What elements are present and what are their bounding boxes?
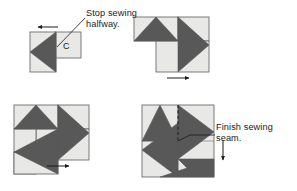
patch-label-c: C bbox=[63, 41, 70, 51]
panel-3-group bbox=[14, 105, 89, 174]
stop-sewing-line-1: Stop sewing bbox=[86, 8, 137, 18]
sewing-sequence-illustration bbox=[0, 0, 297, 191]
finish-sewing-annotation: Finish sewingseam. bbox=[216, 122, 273, 144]
panel-2-group bbox=[134, 17, 209, 78]
panel-4-group bbox=[142, 105, 223, 177]
panel-1-group bbox=[30, 18, 85, 72]
finish-sewing-line-2: seam. bbox=[216, 133, 241, 143]
finish-sewing-line-1: Finish sewing bbox=[216, 122, 273, 132]
diagram-stage: Stop sewinghalfway. Finish sewingseam. C bbox=[0, 0, 297, 191]
stop-sewing-line-2: halfway. bbox=[86, 19, 120, 29]
stop-sewing-annotation: Stop sewinghalfway. bbox=[86, 8, 137, 30]
